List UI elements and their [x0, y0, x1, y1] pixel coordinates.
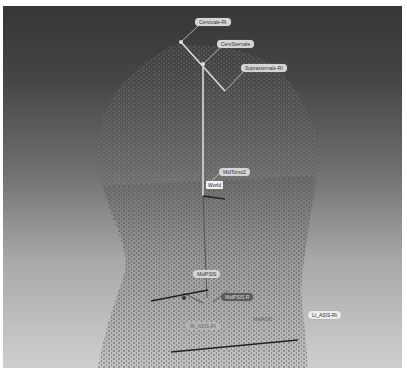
marker-label-midasis[interactable]: MidASIS — [249, 315, 276, 323]
marker-label-cervicale[interactable]: Cervicale-Rt — [195, 18, 231, 26]
3d-viewport[interactable]: Cervicale-Rt CervSternale Suprasternale-… — [3, 6, 402, 368]
marker-label-midtorso[interactable]: MidTorso2 — [219, 168, 250, 176]
marker-label-lt-asis[interactable]: Lt_ASIS-Rt — [308, 311, 341, 319]
marker-label-world[interactable]: World — [206, 181, 223, 189]
marker-label-rt-asis[interactable]: Rt_ASIS-Rt — [186, 322, 220, 330]
marker-label-suprasternale[interactable]: Suprasternale-Rt — [241, 64, 287, 72]
marker-label-cervsternale[interactable]: CervSternale — [217, 40, 254, 48]
marker-label-midpsis[interactable]: MidPSIS — [193, 270, 220, 278]
point-cloud-scene — [3, 6, 402, 368]
marker-label-midpsis-r[interactable]: MidPSIS R — [221, 293, 253, 301]
